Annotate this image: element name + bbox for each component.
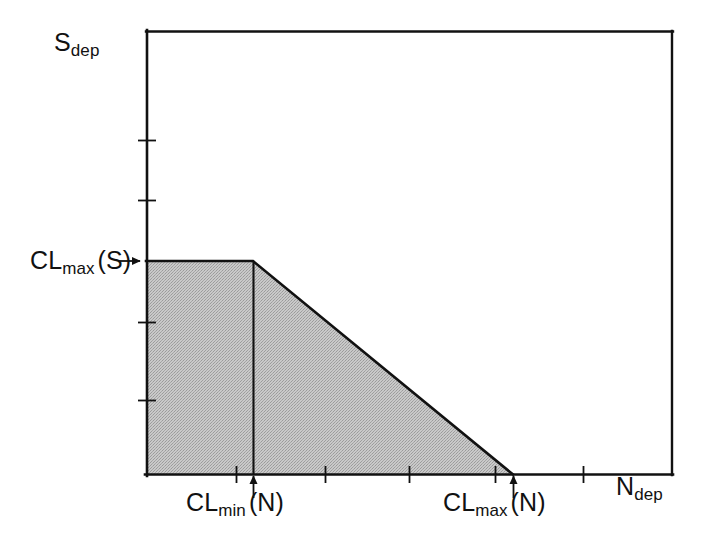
annotation-cl-max-n: CLmax(N) [443, 490, 546, 515]
annotation-cl-max-s-subscript: max [62, 259, 94, 278]
annotation-cl-max-n-subscript: max [475, 501, 507, 520]
annotation-cl-min-n-subscript: min [218, 501, 246, 520]
y-axis-label-s-dep: Sdep [54, 30, 99, 55]
annotation-cl-min-n-paren: (N) [249, 488, 284, 516]
annotation-cl-max-s-paren: (S) [98, 246, 132, 274]
annotation-cl-min-n-base: CL [186, 488, 218, 516]
annotation-cl-min-n: CLmin(N) [186, 490, 284, 515]
x-axis-label-base: N [616, 472, 634, 500]
x-axis-label-n-dep: Ndep [616, 474, 663, 499]
y-axis-label-base: S [54, 28, 71, 56]
annotation-cl-max-s: CLmax(S) [30, 248, 131, 273]
y-axis-label-subscript: dep [71, 41, 100, 60]
annotation-cl-max-n-paren: (N) [511, 488, 546, 516]
annotation-cl-max-s-base: CL [30, 246, 62, 274]
annotation-cl-max-n-base: CL [443, 488, 475, 516]
x-axis-label-subscript: dep [634, 485, 663, 504]
figure-root: Sdep CLmax(S) CLmin(N) CLmax(N) Ndep [0, 0, 706, 544]
